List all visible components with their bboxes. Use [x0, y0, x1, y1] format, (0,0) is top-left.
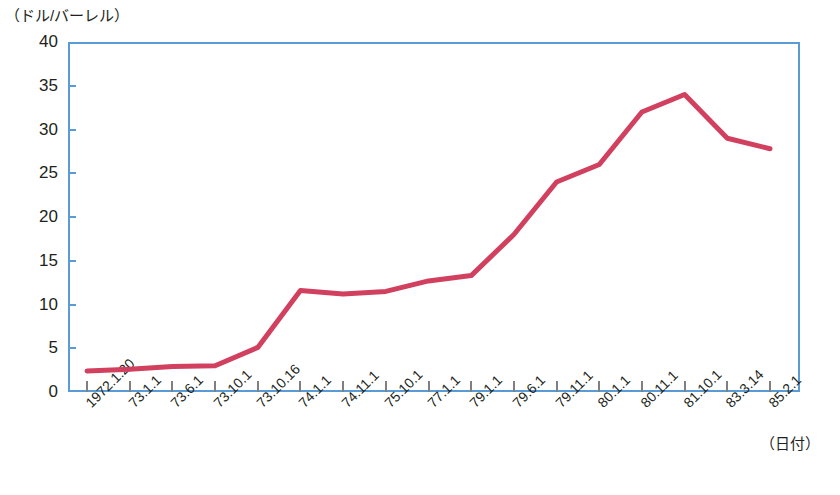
- x-tick-mark: [684, 381, 686, 392]
- x-tick-mark: [129, 381, 131, 392]
- y-tick-mark: [68, 85, 76, 87]
- y-tick-label: 20: [0, 208, 58, 225]
- plot-area: [68, 42, 800, 392]
- y-tick-mark: [68, 347, 76, 349]
- x-tick-mark: [641, 381, 643, 392]
- y-tick-mark: [68, 260, 76, 262]
- x-tick-mark: [86, 381, 88, 392]
- y-tick-label: 40: [0, 33, 58, 50]
- y-tick-label: 10: [0, 296, 58, 313]
- y-tick-label: 30: [0, 121, 58, 138]
- x-tick-mark: [513, 381, 515, 392]
- y-tick-label: 35: [0, 77, 58, 94]
- x-tick-mark: [385, 381, 387, 392]
- y-tick-mark: [68, 304, 76, 306]
- y-tick-label: 0: [0, 383, 58, 400]
- y-axis-unit-label: （ドル/バーレル）: [5, 4, 129, 25]
- x-tick-mark: [726, 381, 728, 392]
- x-tick-mark: [769, 381, 771, 392]
- x-tick-mark: [556, 381, 558, 392]
- x-tick-mark: [598, 381, 600, 392]
- x-tick-mark: [214, 381, 216, 392]
- y-tick-mark: [68, 129, 76, 131]
- y-tick-label: 5: [0, 339, 58, 356]
- x-axis-caption: （日付）: [760, 432, 820, 453]
- x-tick-mark: [299, 381, 301, 392]
- x-tick-mark: [171, 381, 173, 392]
- x-tick-mark: [470, 381, 472, 392]
- x-tick-mark: [342, 381, 344, 392]
- y-tick-mark: [68, 216, 76, 218]
- x-tick-mark: [257, 381, 259, 392]
- x-tick-mark: [428, 381, 430, 392]
- oil-price-line-chart: （ドル/バーレル） 4035302520151050 1972.1.2073.1…: [0, 0, 840, 495]
- y-tick-label: 15: [0, 252, 58, 269]
- y-tick-label: 25: [0, 164, 58, 181]
- y-tick-mark: [68, 172, 76, 174]
